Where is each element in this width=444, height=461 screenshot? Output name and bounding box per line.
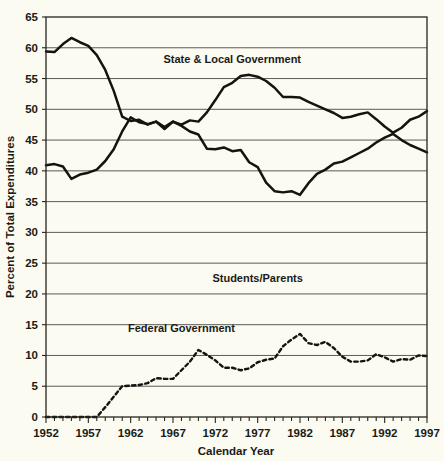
x-tick-label-1987: 1987 (330, 427, 356, 439)
y-tick-label-20: 20 (25, 288, 38, 300)
y-axis-title: Percent of Total Expenditures (4, 136, 16, 298)
x-tick-label-1972: 1972 (203, 427, 229, 439)
chart-background (0, 0, 444, 461)
x-tick-label-1957: 1957 (76, 427, 102, 439)
x-axis-title: Calendar Year (198, 445, 275, 457)
y-tick-label-25: 25 (25, 257, 38, 269)
y-tick-label-40: 40 (25, 165, 38, 177)
x-tick-label-1997: 1997 (414, 427, 440, 439)
x-tick-label-1982: 1982 (287, 427, 313, 439)
y-tick-label-65: 65 (25, 11, 38, 23)
y-tick-label-15: 15 (25, 319, 38, 331)
y-tick-label-50: 50 (25, 103, 38, 115)
y-tick-label-55: 55 (25, 73, 38, 85)
y-tick-label-30: 30 (25, 226, 38, 238)
y-tick-label-60: 60 (25, 42, 38, 54)
y-tick-label-35: 35 (25, 196, 38, 208)
x-tick-label-1977: 1977 (245, 427, 271, 439)
chart-container: 05101520253035404550556065 1952195719621… (0, 0, 444, 461)
y-tick-label-5: 5 (32, 380, 39, 392)
y-tick-label-45: 45 (25, 134, 38, 146)
annotation-state-local-government: State & Local Government (163, 53, 301, 65)
y-tick-label-10: 10 (25, 349, 38, 361)
annotation-federal-government: Federal Government (128, 322, 235, 334)
x-tick-label-1952: 1952 (33, 427, 59, 439)
x-tick-label-1962: 1962 (118, 427, 144, 439)
expenditures-line-chart: 05101520253035404550556065 1952195719621… (0, 0, 444, 461)
annotation-students-parents: Students/Parents (212, 272, 302, 284)
y-tick-label-0: 0 (32, 411, 38, 423)
x-tick-label-1992: 1992 (372, 427, 398, 439)
x-tick-label-1967: 1967 (160, 427, 186, 439)
